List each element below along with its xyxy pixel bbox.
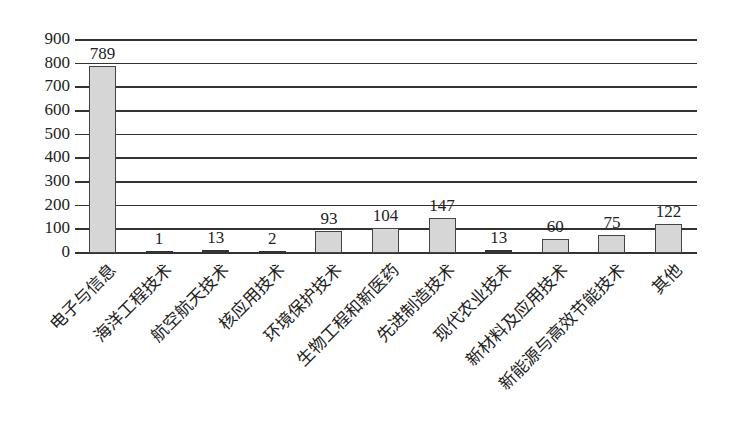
bar bbox=[89, 66, 116, 253]
y-tick-label: 900 bbox=[30, 30, 70, 47]
gridline bbox=[75, 39, 697, 41]
value-label: 13 bbox=[186, 229, 246, 246]
bar-chart: 0100200300400500600700800900 78911329310… bbox=[0, 0, 733, 435]
bar bbox=[259, 251, 286, 253]
bar bbox=[202, 250, 229, 253]
bar bbox=[655, 224, 682, 253]
gridline bbox=[75, 63, 697, 65]
y-tick-label: 400 bbox=[30, 148, 70, 165]
value-label: 104 bbox=[356, 207, 416, 224]
gridline bbox=[75, 181, 697, 183]
value-label: 60 bbox=[525, 218, 585, 235]
bar bbox=[598, 235, 625, 253]
value-label: 789 bbox=[73, 45, 133, 62]
value-label: 75 bbox=[582, 214, 642, 231]
gridline bbox=[75, 86, 697, 88]
bar bbox=[429, 218, 456, 253]
bar bbox=[542, 239, 569, 253]
gridline bbox=[75, 110, 697, 112]
value-label: 1 bbox=[129, 230, 189, 247]
value-label: 2 bbox=[242, 230, 302, 247]
y-tick-label: 100 bbox=[30, 219, 70, 236]
value-label: 13 bbox=[469, 229, 529, 246]
gridline bbox=[75, 134, 697, 136]
y-tick-label: 0 bbox=[30, 243, 70, 260]
value-label: 93 bbox=[299, 210, 359, 227]
y-tick-label: 500 bbox=[30, 125, 70, 142]
y-tick-label: 800 bbox=[30, 54, 70, 71]
bar bbox=[485, 250, 512, 253]
y-tick-label: 200 bbox=[30, 196, 70, 213]
y-tick-label: 600 bbox=[30, 101, 70, 118]
value-label: 122 bbox=[639, 203, 699, 220]
gridline bbox=[75, 157, 697, 159]
bar bbox=[372, 228, 399, 253]
value-label: 147 bbox=[412, 197, 472, 214]
bar bbox=[146, 251, 173, 253]
y-tick-label: 300 bbox=[30, 172, 70, 189]
bar bbox=[315, 231, 342, 253]
y-tick-label: 700 bbox=[30, 77, 70, 94]
